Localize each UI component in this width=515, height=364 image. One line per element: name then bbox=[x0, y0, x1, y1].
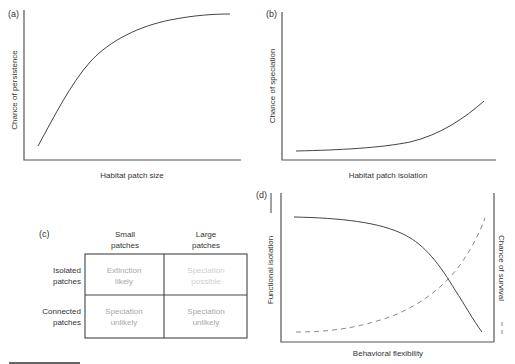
panel-d-axes-left-bottom bbox=[281, 193, 494, 342]
panel-d-ylabel-left: Functional isolation bbox=[266, 236, 275, 304]
panel-b-ylabel: Chance of speciation bbox=[268, 49, 277, 124]
panel-a: (a) Habitat patch size Chance of persist… bbox=[8, 9, 241, 180]
cell-isolated-large-line1: Speciation bbox=[187, 266, 224, 275]
col-header-small-line1: Small bbox=[115, 230, 135, 239]
figure-canvas: (a) Habitat patch size Chance of persist… bbox=[0, 0, 515, 364]
row-header-connected-line2: patches bbox=[53, 318, 81, 327]
functional-isolation-curve bbox=[294, 217, 482, 332]
row-header-isolated-line2: patches bbox=[53, 277, 81, 286]
persistence-curve bbox=[38, 14, 230, 146]
col-header-large-line1: Large bbox=[196, 230, 217, 239]
panel-a-label: (a) bbox=[8, 9, 19, 19]
panel-c-label: (c) bbox=[39, 229, 50, 239]
col-header-small-line2: patches bbox=[111, 241, 139, 250]
panel-d: (d) Behavioral flexibility Functional is… bbox=[256, 190, 506, 358]
panel-a-ylabel: Chance of persistence bbox=[10, 50, 19, 130]
col-header-large-line2: patches bbox=[192, 241, 220, 250]
panel-b: (b) Habitat patch isolation Chance of sp… bbox=[266, 9, 496, 180]
row-header-isolated-line1: Isolated bbox=[53, 266, 81, 275]
chance-of-survival-curve bbox=[296, 218, 485, 332]
panel-d-label: (d) bbox=[256, 190, 267, 200]
cell-isolated-small-line2: likely bbox=[115, 277, 133, 286]
cell-connected-large-line2: unlikely bbox=[193, 318, 220, 327]
panel-d-ylabel-right: Chance of survival bbox=[497, 235, 506, 301]
cell-connected-small-line2: unlikely bbox=[111, 318, 138, 327]
cell-isolated-large-line2: possible bbox=[191, 277, 221, 286]
panel-b-axes bbox=[282, 12, 496, 160]
panel-d-xlabel: Behavioral flexibility bbox=[353, 349, 423, 358]
speciation-curve bbox=[296, 101, 484, 151]
cell-isolated-small-line1: Extinction bbox=[107, 266, 142, 275]
panel-c: (c) Small patches Large patches Isolated… bbox=[9, 229, 247, 363]
panel-a-xlabel: Habitat patch size bbox=[100, 171, 164, 180]
cell-connected-large-line1: Speciation bbox=[187, 307, 224, 316]
row-header-connected-line1: Connected bbox=[42, 307, 81, 316]
panel-b-xlabel: Habitat patch isolation bbox=[349, 171, 428, 180]
panel-b-label: (b) bbox=[266, 9, 277, 19]
cell-connected-small-line1: Speciation bbox=[105, 307, 142, 316]
